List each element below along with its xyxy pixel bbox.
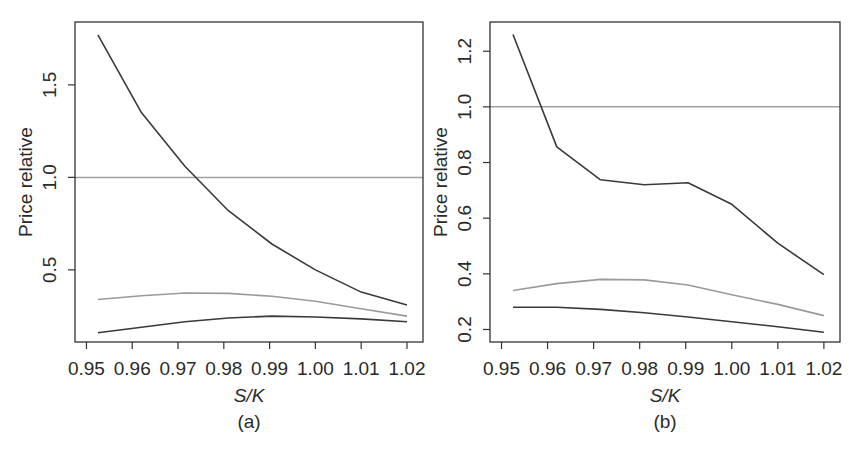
x-tick-label: 0.95 bbox=[68, 358, 105, 379]
y-tick-label: 1.2 bbox=[454, 38, 475, 64]
x-tick-label: 1.01 bbox=[759, 358, 796, 379]
x-tick-label: 0.96 bbox=[529, 358, 566, 379]
x-tick-label: 1.00 bbox=[297, 358, 334, 379]
x-tick-label: 1.02 bbox=[388, 358, 425, 379]
panel-b: 0.950.960.970.980.991.001.011.020.20.40.… bbox=[430, 22, 842, 432]
y-tick-label: 0.8 bbox=[454, 149, 475, 175]
x-axis-title: S/K bbox=[234, 385, 266, 406]
plot-frame bbox=[490, 22, 840, 342]
x-tick-label: 0.95 bbox=[483, 358, 520, 379]
panel-label: (b) bbox=[653, 411, 676, 432]
figure: 0.950.960.970.980.991.001.011.020.51.01.… bbox=[0, 0, 868, 465]
y-tick-label: 1.5 bbox=[39, 72, 60, 98]
x-tick-label: 0.99 bbox=[667, 358, 704, 379]
y-axis-title: Price relative bbox=[430, 127, 451, 237]
x-tick-label: 0.97 bbox=[160, 358, 197, 379]
y-tick-label: 0.5 bbox=[39, 257, 60, 283]
y-tick-label: 1.0 bbox=[39, 164, 60, 190]
series-dark-lower bbox=[513, 307, 824, 332]
y-tick-label: 1.0 bbox=[454, 94, 475, 120]
series-dark-upper bbox=[513, 35, 824, 275]
series-gray-middle bbox=[513, 279, 824, 315]
x-tick-label: 0.97 bbox=[575, 358, 612, 379]
series-dark-lower bbox=[98, 316, 407, 333]
x-tick-label: 0.99 bbox=[251, 358, 288, 379]
x-tick-label: 0.98 bbox=[205, 358, 242, 379]
x-tick-label: 1.02 bbox=[805, 358, 842, 379]
chart-canvas: 0.950.960.970.980.991.001.011.020.51.01.… bbox=[0, 0, 868, 465]
y-tick-label: 0.2 bbox=[454, 316, 475, 342]
panel-a: 0.950.960.970.980.991.001.011.020.51.01.… bbox=[15, 22, 425, 432]
y-tick-label: 0.4 bbox=[454, 260, 475, 287]
x-tick-label: 1.00 bbox=[713, 358, 750, 379]
x-tick-label: 0.96 bbox=[114, 358, 151, 379]
y-tick-label: 0.6 bbox=[454, 205, 475, 231]
y-axis-title: Price relative bbox=[15, 127, 36, 237]
x-tick-label: 1.01 bbox=[343, 358, 380, 379]
series-gray-middle bbox=[98, 293, 407, 316]
x-tick-label: 0.98 bbox=[621, 358, 658, 379]
series-dark-upper bbox=[98, 35, 407, 305]
x-axis-title: S/K bbox=[650, 385, 682, 406]
panel-label: (a) bbox=[237, 411, 260, 432]
